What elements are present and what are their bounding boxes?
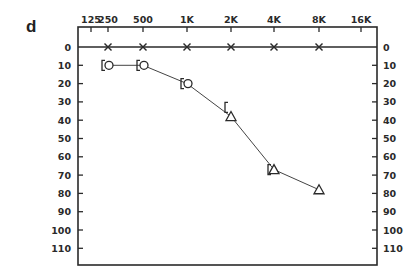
y-tick-label-right: 90 [383, 206, 397, 217]
y-tick-label-right: 50 [383, 133, 397, 144]
y-tick-label-left: 30 [58, 96, 72, 107]
y-tick-label-right: 60 [383, 151, 397, 162]
y-tick-label-right: 0 [383, 42, 390, 53]
y-tick-label-left: 100 [51, 225, 71, 236]
y-tick-label-right: 40 [383, 115, 397, 126]
circle-marker-icon [140, 61, 148, 69]
y-tick-label-left: 40 [58, 115, 72, 126]
y-tick-label-left: 0 [64, 42, 71, 53]
y-tick-label-left: 50 [58, 133, 72, 144]
y-tick-label-right: 10 [383, 60, 397, 71]
y-tick-label-left: 60 [58, 151, 72, 162]
y-tick-label-left: 20 [58, 78, 72, 89]
y-tick-label-right: 30 [383, 96, 397, 107]
y-tick-label-left: 70 [58, 170, 72, 181]
x-tick-label: 500 [133, 14, 153, 25]
y-tick-label-right: 110 [383, 243, 403, 254]
triangle-marker-icon [314, 185, 324, 194]
x-tick-label: 1K [180, 14, 195, 25]
y-tick-label-left: 80 [58, 188, 72, 199]
y-tick-label-left: 90 [58, 206, 72, 217]
plot-frame [78, 27, 377, 265]
y-tick-label-right: 70 [383, 170, 397, 181]
circle-marker-icon [184, 80, 192, 88]
x-tick-label: 4K [267, 14, 282, 25]
audiogram-chart: 1252505001K2K4K8K16K00101020203030404050… [0, 0, 418, 278]
y-tick-label-right: 20 [383, 78, 397, 89]
y-tick-label-right: 100 [383, 225, 403, 236]
x-tick-label: 250 [98, 14, 118, 25]
circle-marker-icon [105, 61, 113, 69]
y-tick-label-left: 110 [51, 243, 71, 254]
bracket-marker-icon [225, 102, 228, 112]
y-tick-label-right: 80 [383, 188, 397, 199]
y-tick-label-left: 10 [58, 60, 72, 71]
x-tick-label: 8K [312, 14, 327, 25]
x-tick-label: 16K [351, 14, 372, 25]
x-tick-label: 2K [224, 14, 239, 25]
series-line [108, 65, 319, 189]
